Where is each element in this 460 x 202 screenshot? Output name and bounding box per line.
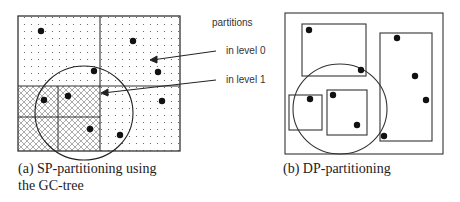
- data-point: [38, 28, 44, 34]
- data-point: [354, 122, 360, 128]
- data-point: [159, 98, 165, 104]
- caption-a: (a) SP-partitioning using the GC-tree: [18, 160, 156, 194]
- data-point: [423, 97, 429, 103]
- data-point: [155, 69, 161, 75]
- data-point: [381, 133, 387, 139]
- data-point: [306, 27, 312, 33]
- data-point: [65, 93, 71, 99]
- sp-partitioning-panel: [18, 16, 216, 160]
- legend-level0: in level 0: [226, 45, 266, 56]
- data-point: [358, 67, 364, 73]
- data-point: [117, 132, 123, 138]
- level1-region-hatched: [18, 86, 100, 151]
- data-point: [130, 38, 136, 44]
- caption-b: (b) DP-partitioning: [283, 160, 391, 177]
- caption-a-line1: (a) SP-partitioning using: [18, 160, 156, 177]
- partition-box: [380, 33, 432, 141]
- caption-a-line2: the GC-tree: [18, 177, 156, 194]
- data-point: [87, 126, 93, 132]
- data-point: [41, 97, 47, 103]
- data-point: [91, 68, 97, 74]
- data-point: [412, 73, 418, 79]
- data-point: [394, 35, 400, 41]
- legend-level1: in level 1: [226, 74, 266, 85]
- legend-title: partitions: [212, 17, 253, 28]
- outer-boundary: [285, 13, 443, 154]
- dp-partitioning-panel: [285, 13, 443, 154]
- query-circle: [293, 64, 387, 154]
- data-point: [330, 92, 336, 98]
- data-point: [307, 96, 313, 102]
